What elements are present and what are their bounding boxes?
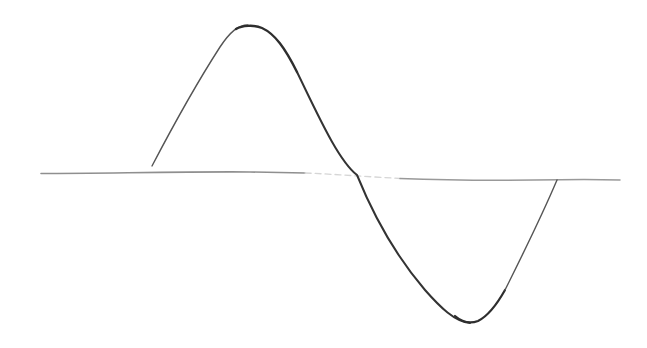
wave-trough-segment — [455, 290, 505, 322]
sine-wave-sketch — [0, 0, 647, 348]
wave-peak-segment — [236, 26, 297, 72]
horizontal-axis — [41, 172, 620, 180]
axis-segment-left — [41, 172, 305, 174]
axis-segment-faint — [305, 173, 400, 179]
axis-segment-right — [400, 179, 620, 181]
wave-rising-segment — [152, 25, 248, 166]
sine-wave — [152, 25, 557, 323]
wave-descending-segment — [297, 72, 470, 323]
wave-rising-end-segment — [505, 180, 557, 290]
